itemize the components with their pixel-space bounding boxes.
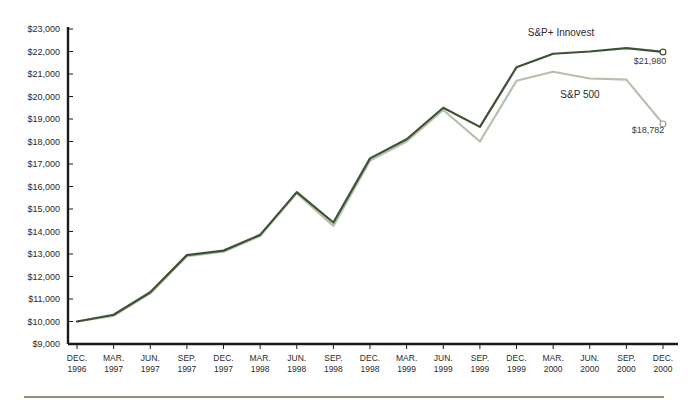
- y-axis-tick-label: $9,000: [32, 339, 60, 349]
- x-axis-tick-label-year: 1997: [214, 364, 233, 374]
- series-endpoint-marker-innovest: [660, 49, 666, 55]
- x-axis-tick-label-month: MAR.: [103, 353, 124, 363]
- series-label-innovest: S&P+ Innovest: [528, 27, 595, 38]
- x-axis-tick-label-month: DEC.: [360, 353, 380, 363]
- y-axis-tick-label: $21,000: [27, 69, 60, 79]
- x-axis-tick-label-year: 1997: [141, 364, 160, 374]
- y-axis-tick-label: $17,000: [27, 159, 60, 169]
- end-value-label-sp500: $18,782: [632, 125, 665, 135]
- x-axis-tick-label-year: 1999: [470, 364, 489, 374]
- y-axis-tick-label: $16,000: [27, 182, 60, 192]
- chart-container: $23,000$22,000$21,000$20,000$19,000$18,0…: [0, 0, 688, 407]
- x-axis-tick-label-month: DEC.: [213, 353, 233, 363]
- x-axis-tick-label-year: 1998: [361, 364, 380, 374]
- x-axis-tick-label-year: 1998: [324, 364, 343, 374]
- x-axis: DEC.1996MAR.1997JUN.1997SEP.1997DEC.1997…: [67, 344, 678, 374]
- y-axis-tick-label: $23,000: [27, 24, 60, 34]
- series-label-sp500: S&P 500: [560, 89, 600, 100]
- x-axis-tick-label-year: 2000: [544, 364, 563, 374]
- x-axis-tick-label-year: 1998: [287, 364, 306, 374]
- end-value-label-innovest: $21,980: [634, 56, 667, 66]
- x-axis-tick-label-month: JUN.: [434, 353, 453, 363]
- x-axis-tick-label-year: 1996: [68, 364, 87, 374]
- y-axis-tick-label: $22,000: [27, 47, 60, 57]
- x-axis-tick-label-year: 1999: [397, 364, 416, 374]
- x-axis-tick-label-month: MAR.: [543, 353, 564, 363]
- y-axis-tick-label: $13,000: [27, 249, 60, 259]
- x-axis-tick-label-year: 1998: [251, 364, 270, 374]
- x-axis-tick-label-month: JUN.: [287, 353, 306, 363]
- x-axis-tick-label-month: DEC.: [506, 353, 526, 363]
- y-axis-tick-label: $11,000: [28, 294, 60, 304]
- y-axis-tick-label: $20,000: [27, 92, 60, 102]
- annotation-group: S&P+ InnovestS&P 500$21,980$18,782: [528, 27, 666, 135]
- x-axis-tick-label-year: 2000: [617, 364, 636, 374]
- x-axis-tick-label-year: 1997: [104, 364, 123, 374]
- y-axis-tick-label: $19,000: [27, 114, 60, 124]
- y-axis-tick-label: $10,000: [27, 317, 60, 327]
- x-axis-tick-label-month: DEC.: [67, 353, 87, 363]
- y-axis-tick-label: $12,000: [27, 272, 60, 282]
- x-axis-tick-label-month: SEP.: [178, 353, 196, 363]
- y-axis-tick-label: $14,000: [27, 227, 60, 237]
- x-axis-tick-label-month: SEP.: [324, 353, 342, 363]
- x-axis-tick-label-month: DEC.: [653, 353, 673, 363]
- x-axis-tick-label-month: SEP.: [471, 353, 489, 363]
- x-axis-tick-label-year: 1999: [507, 364, 526, 374]
- line-chart: $23,000$22,000$21,000$20,000$19,000$18,0…: [0, 0, 688, 407]
- x-axis-tick-label-month: SEP.: [617, 353, 635, 363]
- x-axis-tick-label-year: 1997: [177, 364, 196, 374]
- y-axis-tick-label: $15,000: [27, 204, 60, 214]
- x-axis-tick-label-month: MAR.: [396, 353, 417, 363]
- x-axis-tick-label-month: MAR.: [250, 353, 271, 363]
- x-axis-tick-label-year: 1999: [434, 364, 453, 374]
- series-line-sp500: [77, 72, 663, 322]
- x-axis-tick-label-year: 2000: [580, 364, 599, 374]
- y-axis-tick-label: $18,000: [27, 137, 60, 147]
- x-axis-tick-label-month: JUN.: [580, 353, 599, 363]
- x-axis-tick-label-month: JUN.: [141, 353, 160, 363]
- y-axis: $23,000$22,000$21,000$20,000$19,000$18,0…: [27, 24, 73, 349]
- x-axis-tick-label-year: 2000: [654, 364, 673, 374]
